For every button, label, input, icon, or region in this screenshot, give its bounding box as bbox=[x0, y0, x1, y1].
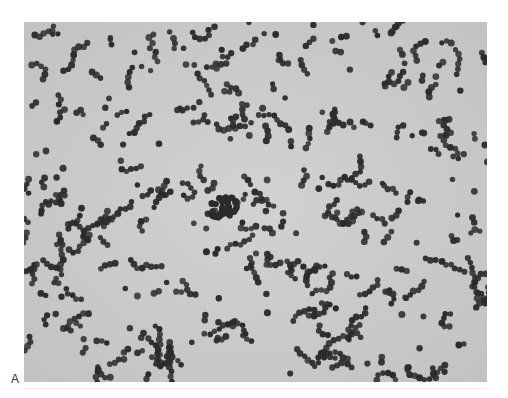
figure: A bbox=[0, 0, 508, 398]
divider bbox=[24, 388, 487, 389]
panel-label: A bbox=[11, 372, 19, 386]
micrograph-image bbox=[24, 22, 487, 382]
bacteria-cells bbox=[24, 22, 487, 382]
